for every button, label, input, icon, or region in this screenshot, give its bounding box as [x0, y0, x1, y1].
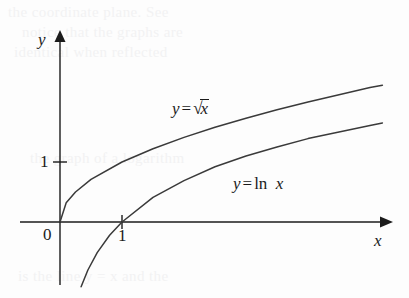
origin-label: 0	[43, 225, 52, 245]
curve-sqrt-x	[60, 85, 382, 222]
x-axis-label: x	[374, 231, 382, 251]
radical-group: √x	[193, 99, 209, 119]
curve-ln-x	[81, 123, 382, 287]
curve-label-sqrt: y=√x	[172, 99, 209, 119]
curve-label-ln-equals: =	[241, 174, 255, 193]
plot-canvas	[0, 0, 409, 298]
y-axis-arrowhead	[55, 30, 66, 42]
axis-group	[20, 30, 393, 285]
curve-label-ln-arg: x	[276, 174, 284, 193]
y-axis-label: y	[38, 30, 46, 50]
curve-label-ln: y=ln x	[233, 174, 283, 194]
curve-label-sqrt-equals: =	[180, 99, 194, 118]
y-tick-label-1: 1	[40, 152, 49, 172]
curve-label-ln-lhs: y	[233, 174, 241, 193]
tick-group	[53, 162, 122, 229]
curve-label-sqrt-lhs: y	[172, 99, 180, 118]
x-tick-label-1: 1	[118, 226, 127, 246]
x-axis-arrowhead	[380, 217, 393, 228]
curve-label-sqrt-radicand: x	[200, 99, 209, 118]
figure-root: the coordinate plane. See notice that th…	[0, 0, 409, 298]
curve-label-ln-fn: ln	[254, 174, 267, 193]
